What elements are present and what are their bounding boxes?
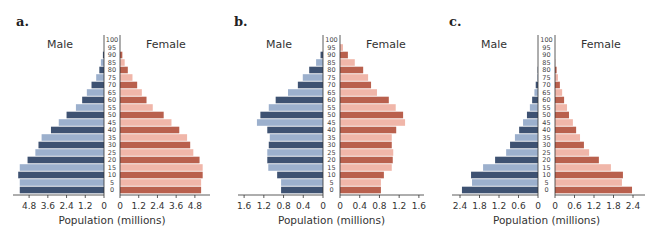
female-bar-age-55 [555, 104, 567, 111]
x-tick-label-female: 2.4 [626, 201, 641, 211]
female-bar-age-5 [555, 179, 622, 186]
male-bar-age-40 [519, 127, 538, 134]
female-bar-age-25 [555, 149, 589, 156]
age-label: 55 [542, 104, 550, 112]
age-label: 40 [542, 126, 550, 134]
age-label: 20 [542, 156, 550, 164]
female-bar-age-75 [555, 74, 558, 81]
female-bar-age-60 [555, 97, 564, 104]
female-label: Female [581, 38, 621, 51]
male-bar-age-50 [527, 112, 538, 119]
age-label: 10 [542, 171, 550, 179]
age-label: 15 [542, 164, 550, 172]
male-bar-age-5 [472, 179, 538, 186]
female-bar-age-20 [555, 157, 599, 164]
age-label: 25 [542, 149, 550, 157]
pyramid-chart: 0510152025303540455055606570758085909510… [0, 0, 655, 243]
x-tick-label-male: 2.4 [453, 201, 468, 211]
age-label: 80 [542, 66, 550, 74]
female-bar-age-70 [555, 82, 560, 89]
age-label: 100 [540, 36, 552, 44]
male-bar-age-65 [534, 89, 538, 96]
age-label: 90 [542, 51, 550, 59]
pyramid-panel-c: c.05101520253035404550556065707580859095… [0, 0, 655, 243]
x-tick-label-male: 1.2 [492, 201, 506, 211]
x-tick-label-male: 0.6 [511, 201, 526, 211]
female-bar-age-30 [555, 142, 584, 149]
male-label: Male [481, 38, 507, 51]
male-bar-age-45 [523, 119, 538, 126]
male-bar-age-30 [510, 142, 538, 149]
x-tick-label-female: 0 [552, 201, 558, 211]
age-label: 35 [542, 134, 550, 142]
age-label: 85 [542, 59, 550, 67]
age-label: 30 [542, 141, 550, 149]
female-bar-age-45 [555, 119, 573, 126]
age-label: 70 [542, 81, 550, 89]
female-bar-age-40 [555, 127, 576, 134]
x-tick-label-male: 0 [535, 201, 541, 211]
age-label: 50 [542, 111, 550, 119]
age-label: 0 [544, 186, 548, 194]
age-label: 75 [542, 74, 550, 82]
male-bar-age-25 [506, 149, 538, 156]
male-bar-age-0 [462, 187, 538, 194]
male-bar-age-35 [515, 134, 538, 141]
age-label: 95 [542, 44, 550, 52]
age-label: 5 [544, 179, 548, 187]
age-label: 45 [542, 119, 550, 127]
x-axis-title: Population (millions) [493, 214, 600, 226]
female-bar-age-50 [555, 112, 569, 119]
x-tick-label-male: 1.8 [472, 201, 487, 211]
female-bar-age-65 [555, 89, 562, 96]
male-bar-age-15 [483, 164, 538, 171]
age-label: 60 [542, 96, 550, 104]
male-bar-age-55 [530, 104, 538, 111]
x-tick-label-female: 1.2 [587, 201, 601, 211]
female-bar-age-35 [555, 134, 580, 141]
x-tick-label-female: 0.6 [567, 201, 582, 211]
male-bar-age-60 [532, 97, 538, 104]
male-bar-age-10 [471, 172, 538, 179]
female-bar-age-15 [555, 164, 611, 171]
female-bar-age-10 [555, 172, 623, 179]
female-bar-age-0 [555, 187, 632, 194]
male-bar-age-20 [495, 157, 538, 164]
age-label: 65 [542, 89, 550, 97]
x-tick-label-female: 1.8 [606, 201, 621, 211]
